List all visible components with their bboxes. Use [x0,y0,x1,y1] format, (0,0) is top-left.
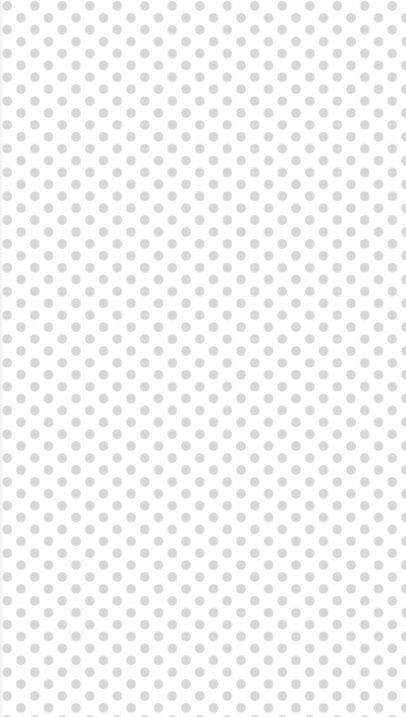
dot-pattern-background [0,0,406,717]
left-edge-shade [0,0,4,717]
